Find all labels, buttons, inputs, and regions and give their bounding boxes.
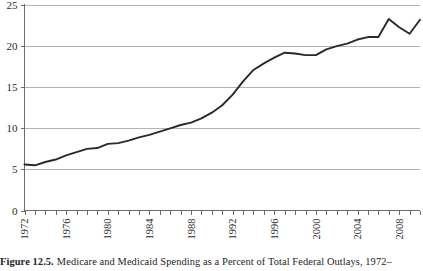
- x-tick-label-1988: 1988: [186, 219, 197, 240]
- x-tick-label-1984: 1984: [144, 218, 155, 240]
- y-tick-label-5: 5: [12, 163, 18, 175]
- y-tick-label-20: 20: [7, 40, 19, 52]
- chart-plot-area: 0510152025 19721976198019841988199219962…: [0, 0, 423, 252]
- series-line-0: [25, 19, 421, 165]
- y-tick-label-25: 25: [7, 0, 19, 11]
- x-axis-tick-labels: 1972197619801984198819921996200020042008: [19, 218, 405, 240]
- x-tick-label-2004: 2004: [352, 218, 363, 240]
- x-tick-label-2000: 2000: [311, 219, 322, 240]
- x-tick-label-1996: 1996: [269, 219, 280, 240]
- line-chart-svg: 0510152025 19721976198019841988199219962…: [0, 0, 423, 252]
- x-axis-ticks: [26, 211, 421, 216]
- x-tick-label-2008: 2008: [394, 219, 405, 240]
- y-tick-label-15: 15: [7, 81, 19, 93]
- y-tick-label-0: 0: [12, 205, 18, 217]
- figure-caption: Figure 12.5. Medicare and Medicaid Spend…: [0, 252, 423, 271]
- axis-lines: [25, 4, 421, 211]
- data-series: [25, 19, 421, 165]
- caption-text: Medicare and Medicaid Spending as a Perc…: [57, 256, 392, 267]
- figure-container: 0510152025 19721976198019841988199219962…: [0, 0, 423, 271]
- gridlines: [25, 6, 421, 170]
- x-tick-label-1992: 1992: [227, 219, 238, 240]
- caption-figure-number: Figure 12.5.: [0, 256, 54, 267]
- x-tick-label-1980: 1980: [102, 219, 113, 240]
- y-tick-label-10: 10: [7, 122, 19, 134]
- x-tick-label-1976: 1976: [61, 219, 72, 240]
- x-tick-label-1972: 1972: [19, 219, 30, 240]
- y-axis-ticks: 0510152025: [7, 0, 25, 217]
